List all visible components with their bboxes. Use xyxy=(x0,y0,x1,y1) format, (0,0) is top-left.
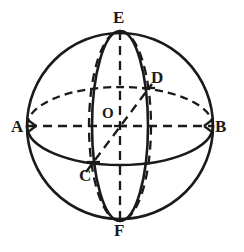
vertex-label-B: B xyxy=(215,118,226,135)
vertex-label-F: F xyxy=(114,222,124,239)
vertex-label-A: A xyxy=(11,118,23,135)
vertex-label-O: O xyxy=(102,105,114,122)
vertex-label-D: D xyxy=(151,69,163,86)
sphere-diagram: E D O A B C F xyxy=(0,0,244,252)
vertex-label-C: C xyxy=(79,167,91,184)
sphere-drawing xyxy=(0,0,244,252)
vertex-label-E: E xyxy=(113,9,124,26)
